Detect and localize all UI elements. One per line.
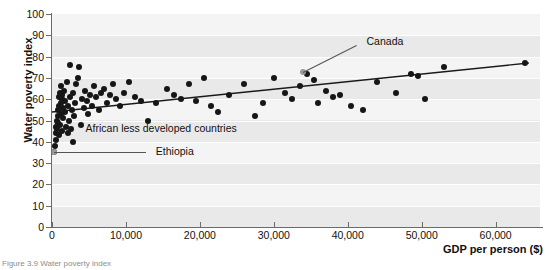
- data-point: [110, 81, 116, 87]
- data-point: [117, 103, 123, 109]
- y-tick-label: 10: [8, 201, 44, 211]
- data-point: [271, 75, 277, 81]
- x-tick-label: 0: [49, 230, 55, 241]
- data-point: [215, 109, 221, 115]
- data-point: [85, 111, 91, 117]
- data-point: [348, 103, 354, 109]
- y-tick: [46, 121, 51, 122]
- data-point: [178, 96, 184, 102]
- data-point: [60, 115, 66, 121]
- data-point: [374, 79, 380, 85]
- data-point: [330, 94, 336, 100]
- x-tick-label: 50,000: [406, 230, 438, 241]
- y-tick: [46, 78, 51, 79]
- data-point: [422, 96, 428, 102]
- data-point: [315, 100, 321, 106]
- data-point: [87, 92, 93, 98]
- x-tick-label: 30,000: [258, 230, 290, 241]
- y-tick: [46, 184, 51, 185]
- data-point: [104, 100, 110, 106]
- data-point: [81, 105, 87, 111]
- y-axis-line: [51, 13, 52, 228]
- y-tick: [46, 227, 51, 228]
- data-point: [107, 92, 113, 98]
- trend-line: [52, 14, 540, 227]
- data-point: [73, 81, 79, 87]
- data-point: [69, 107, 75, 113]
- x-axis-title: GDP per person ($): [443, 243, 543, 255]
- y-tick: [46, 142, 51, 143]
- data-point: [70, 139, 76, 145]
- data-point: [52, 143, 58, 149]
- y-tick: [46, 99, 51, 100]
- data-point: [289, 96, 295, 102]
- data-point: [64, 79, 70, 85]
- data-point: [62, 109, 68, 115]
- data-point: [408, 71, 414, 77]
- data-point: [241, 81, 247, 87]
- data-point: [101, 86, 107, 92]
- data-point: [441, 64, 447, 70]
- data-point: [226, 92, 232, 98]
- data-point: [153, 100, 159, 106]
- data-point: [68, 126, 74, 132]
- data-point: [252, 113, 258, 119]
- y-tick-label: 0: [8, 222, 44, 232]
- data-point: [415, 73, 421, 79]
- x-tick: [126, 222, 127, 227]
- x-tick: [348, 222, 349, 227]
- data-point: [113, 96, 119, 102]
- plot-area: CanadaAfrican less developed countriesEt…: [52, 14, 540, 227]
- data-point: [67, 62, 73, 68]
- y-tick: [46, 57, 51, 58]
- figure-caption: Figure 3.9 Water poverty index: [2, 259, 111, 268]
- data-point: [70, 90, 76, 96]
- data-point: [323, 88, 329, 94]
- data-point: [201, 75, 207, 81]
- data-point: [76, 64, 82, 70]
- data-point: [89, 103, 95, 109]
- data-point: [522, 60, 528, 66]
- data-point: [193, 98, 199, 104]
- data-point: [61, 88, 67, 94]
- annotation-label: Ethiopia: [156, 146, 194, 157]
- data-point: [138, 98, 144, 104]
- data-point: [393, 90, 399, 96]
- data-point: [311, 77, 317, 83]
- x-tick-label: 10,000: [110, 230, 142, 241]
- data-point: [121, 90, 127, 96]
- data-point: [282, 90, 288, 96]
- x-tick: [496, 222, 497, 227]
- x-tick: [274, 222, 275, 227]
- data-point: [208, 103, 214, 109]
- y-tick: [46, 14, 51, 15]
- x-tick-label: 40,000: [332, 230, 364, 241]
- data-point: [96, 107, 102, 113]
- annotation-leader-line: [54, 152, 146, 153]
- data-point: [260, 100, 266, 106]
- x-tick: [52, 222, 53, 227]
- x-axis-line: [51, 227, 543, 228]
- annotation-label: African less developed countries: [86, 123, 237, 134]
- x-tick-label: 20,000: [184, 230, 216, 241]
- data-point: [126, 79, 132, 85]
- y-axis-title: Water poverty index: [22, 10, 34, 170]
- x-tick-label: 60,000: [480, 230, 512, 241]
- x-tick: [200, 222, 201, 227]
- y-tick: [46, 35, 51, 36]
- y-tick: [46, 163, 51, 164]
- data-point: [337, 92, 343, 98]
- y-tick: [46, 206, 51, 207]
- data-point: [297, 83, 303, 89]
- x-tick: [422, 222, 423, 227]
- y-tick-label: 20: [8, 179, 44, 189]
- data-point: [91, 83, 97, 89]
- figure-water-poverty-index: CanadaAfrican less developed countriesEt…: [0, 0, 549, 270]
- data-point: [78, 122, 84, 128]
- data-point: [72, 100, 78, 106]
- data-point: [164, 86, 170, 92]
- data-point: [171, 92, 177, 98]
- data-point: [132, 94, 138, 100]
- data-point: [186, 81, 192, 87]
- data-point: [75, 75, 81, 81]
